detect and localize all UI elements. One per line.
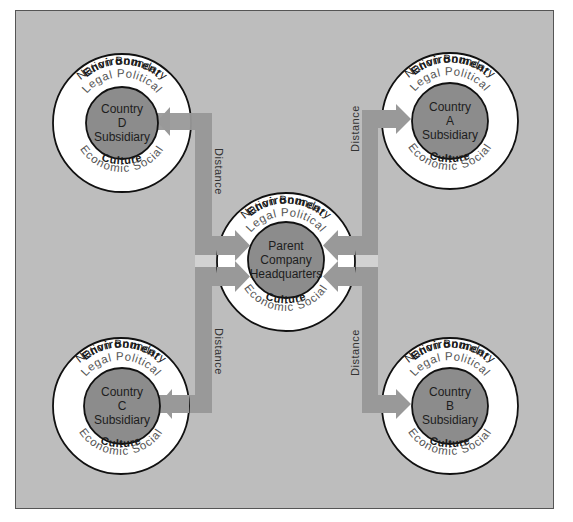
node-parent-company[interactable]: Nation Boundary Environment Legal Politi… [217,193,355,331]
node-line2: C [118,399,127,413]
node-country-a[interactable]: Nation Boundary Environment Legal Politi… [380,52,518,189]
node-line1: Country [429,100,471,114]
node-line3: Subsidiary [422,413,478,427]
node-line2: B [446,399,454,413]
node-line1: Country [101,102,143,116]
node-line3: Headquarters [250,267,323,281]
node-line3: Subsidiary [94,413,150,427]
node-line3: Subsidiary [422,128,478,142]
node-line2: Company [260,253,311,267]
node-line1: Country [429,385,471,399]
node-country-b[interactable]: Nation Boundary Environment Legal Politi… [380,337,518,474]
node-line2: A [446,114,454,128]
distance-label-a: Distance [349,105,361,152]
diagram-canvas: Nation Boundary Environment Legal Politi… [0,0,573,522]
node-line1: Country [101,385,143,399]
distance-label-d: Distance [213,148,225,195]
node-line1: Parent [268,239,304,253]
node-line3: Subsidiary [94,130,150,144]
node-line2: D [118,116,127,130]
node-country-d[interactable]: Nation Boundary Environment Legal Politi… [53,54,192,192]
node-country-c[interactable]: Nation Boundary Environment Legal Politi… [53,337,189,474]
distance-label-c: Distance [213,328,225,375]
distance-label-b: Distance [349,329,361,376]
